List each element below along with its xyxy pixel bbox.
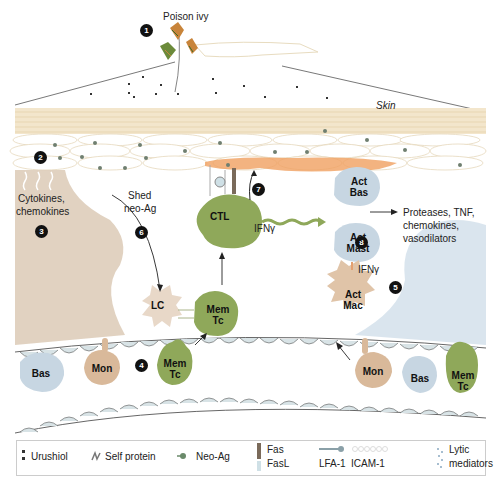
lytic-mediators-icon: [435, 446, 445, 470]
lc-cell-label: LC: [151, 300, 164, 311]
legend-box: Urushiol Self protein Neo-Ag Fas FasL LF…: [16, 440, 486, 476]
products-line-1: Proteases, TNF,: [403, 207, 475, 219]
legend-icam1: ICAM-1: [351, 458, 385, 470]
bas-left-cell: Bas: [26, 368, 56, 379]
products-line-3: vasodilators: [403, 233, 456, 245]
poison-ivy-label: Poison ivy: [163, 11, 209, 23]
ctl-cell-label: CTL: [210, 211, 229, 222]
act-mast-cell: ActMast: [340, 232, 376, 254]
skin-label: Skin: [376, 100, 395, 112]
legend-lytic-2: mediators: [449, 458, 493, 470]
poison-ivy-icon: [160, 22, 198, 92]
mem-tc-left-cell: MemTc: [160, 358, 190, 380]
neo-ag-label: neo-Ag: [124, 203, 156, 215]
act-bas-cell: ActBas: [344, 176, 374, 198]
act-mac-cell: ActMac: [338, 289, 368, 311]
mem-tc-right-cell: MemTc: [448, 370, 478, 392]
self-protein-icon: [91, 451, 101, 461]
step-5-badge: 5: [389, 281, 402, 294]
neo-ag-icon: [177, 451, 187, 461]
step-6-badge: 6: [135, 226, 148, 239]
legend-fas: Fas: [267, 444, 284, 456]
mon-left-cell: Mon: [87, 363, 117, 374]
chemokines-label: chemokines: [16, 206, 69, 218]
step-4-badge: 4: [135, 359, 148, 372]
legend-lfa1: LFA-1: [319, 458, 346, 470]
ifng-ctl-label: IFNγ: [254, 223, 275, 235]
urushiol-icon: [21, 449, 27, 461]
step-7-badge: 7: [252, 183, 265, 196]
step-3-badge: 3: [35, 225, 48, 238]
products-line-2: chemokines,: [403, 220, 459, 232]
step-1-badge: 1: [140, 24, 153, 37]
shed-label: Shed: [128, 190, 151, 202]
cytokines-label: Cytokines,: [18, 193, 65, 205]
legend-neo-ag: Neo-Ag: [196, 451, 230, 463]
mem-tc-top-cell: MemTc: [203, 304, 233, 326]
bas-right-cell: Bas: [404, 373, 436, 384]
ifng-mac-label: IFNγ: [358, 264, 379, 276]
legend-self-protein: Self protein: [105, 451, 156, 463]
lfa1-icam1-icon: [317, 444, 407, 454]
legend-urushiol: Urushiol: [31, 451, 68, 463]
legend-lytic-1: Lytic: [449, 444, 469, 456]
fas-fasl-icon: [257, 443, 263, 473]
mon-right-cell: Mon: [357, 366, 389, 377]
legend-fasl: FasL: [267, 458, 289, 470]
step-2-badge: 2: [34, 151, 47, 164]
